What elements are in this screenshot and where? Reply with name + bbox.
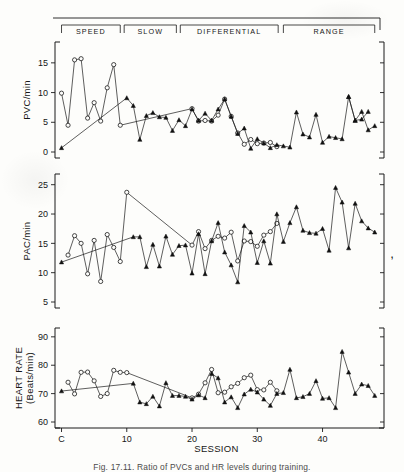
data-point-open [66,253,70,257]
data-point-open [203,381,207,385]
data-point-open [112,63,116,67]
panel-top: 051015PVC/min [21,42,384,158]
data-point-open [79,241,83,245]
data-point-filled [236,406,240,410]
y-axis-title-units: (Beats/min) [24,352,35,404]
data-point-filled [373,393,377,397]
data-point-filled [333,406,337,410]
data-point-filled [203,396,207,400]
data-point-open [66,380,70,384]
data-point-filled [138,400,142,404]
y-tick-label: 15 [38,239,48,249]
data-point-filled [301,132,305,136]
data-point-open [92,238,96,242]
data-point-filled [275,212,279,216]
data-point-filled [314,379,318,383]
data-point-filled [307,391,311,395]
data-point-filled [255,261,259,265]
phase-label-speed: SPEED [76,27,106,36]
panel-bottom: 60708090HEART RATE(Beats/min)C10203040SE… [13,328,384,454]
data-point-filled [333,185,337,189]
data-point-open [210,367,214,371]
data-point-filled [151,242,155,246]
phase-label-slow: SLOW [137,27,163,36]
data-point-filled [216,107,220,111]
data-point-filled [190,271,194,275]
data-point-open [72,392,76,396]
data-point-open [203,118,207,122]
data-point-open [223,236,227,240]
data-point-filled [347,370,351,374]
data-point-open [86,116,90,120]
data-point-open [105,86,109,90]
data-point-filled [340,200,344,204]
data-point-filled [327,248,331,252]
data-point-open [229,385,233,389]
data-point-filled [373,230,377,234]
data-point-filled [203,111,207,115]
data-point-open [92,101,96,105]
figure-caption: Fig. 17.11. Ratio of PVCs and HR levels … [0,462,404,472]
data-point-open [99,279,103,283]
y-axis-title: PAC/min [21,222,32,261]
data-point-filled [151,111,155,115]
scan-artifact-comma: , [390,246,394,261]
data-point-open [255,244,259,248]
data-point-open [118,259,122,263]
data-point-filled [360,382,364,386]
data-point-open [236,381,240,385]
x-tick-label: 40 [318,434,328,444]
data-point-filled [242,392,246,396]
data-point-filled [360,109,364,113]
data-point-open [242,376,246,380]
data-point-filled [301,395,305,399]
phase-label-differential: DIFFERENTIAL [197,27,261,36]
data-point-filled [144,265,148,269]
data-point-open [223,390,227,394]
data-point-open [79,370,83,374]
data-point-filled [281,391,285,395]
data-point-open [125,190,129,194]
data-point-filled [216,376,220,380]
data-point-open [203,247,207,251]
data-point-filled [353,201,357,205]
data-point-filled [125,96,129,100]
data-point-filled [131,381,135,385]
data-point-filled [229,395,233,399]
y-tick-label: 10 [38,88,48,98]
data-point-filled [203,272,207,276]
data-point-open [268,230,272,234]
data-point-filled [236,280,240,284]
y-tick-label: 5 [43,117,48,127]
data-point-filled [360,219,364,223]
data-point-filled [268,261,272,265]
data-point-open [72,234,76,238]
data-point-filled [294,110,298,114]
data-point-filled [268,146,272,150]
panel-middle: 510152025PAC/min [21,174,384,308]
data-point-open [216,234,220,238]
y-tick-label: 5 [43,297,48,307]
data-point-open [99,394,103,398]
data-point-open [216,391,220,395]
data-point-filled [327,134,331,138]
phase-label-range: RANGE [314,27,345,36]
data-point-open [229,230,233,234]
data-point-open [190,243,194,247]
data-point-filled [255,137,259,141]
data-point-open [59,91,63,95]
data-point-filled [164,381,168,385]
data-point-open [242,142,246,146]
data-point-filled [366,128,370,132]
data-point-open [249,373,253,377]
y-tick-label: 15 [38,58,48,68]
y-tick-label: 20 [38,209,48,219]
data-point-filled [223,250,227,254]
data-point-filled [242,224,246,228]
x-tick-label: 10 [122,434,132,444]
data-point-open [99,119,103,123]
x-tick-label: C [58,434,65,444]
data-point-open [262,233,266,237]
data-point-open [79,57,83,61]
x-tick-label: 20 [187,434,197,444]
